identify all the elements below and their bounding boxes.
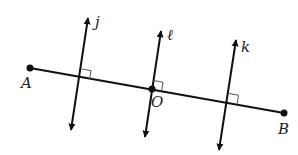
- label-k: k: [241, 38, 250, 56]
- perpendicular-lines-diagram: A O B j ℓ k: [0, 0, 298, 155]
- label-o: O: [151, 93, 163, 111]
- label-a: A: [19, 74, 32, 92]
- right-angle-mark-k: [229, 94, 239, 104]
- point-a: [27, 65, 34, 72]
- label-l: ℓ: [167, 26, 173, 44]
- line-j: [71, 18, 88, 130]
- label-b: B: [277, 120, 289, 138]
- line-l: [145, 31, 161, 137]
- label-j: j: [92, 13, 100, 31]
- point-b: [281, 110, 288, 117]
- point-o: [149, 86, 156, 93]
- line-k: [219, 40, 236, 150]
